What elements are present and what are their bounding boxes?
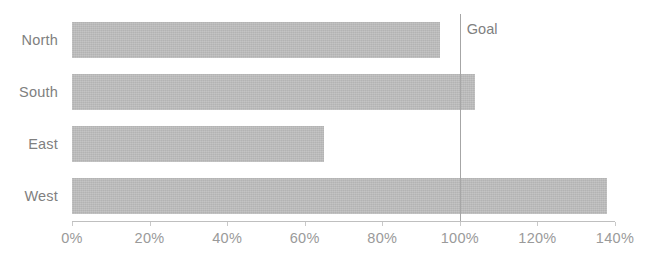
- bar-row: [72, 126, 615, 162]
- bar-chart: North South East West Goal 0%20%40%60%80…: [0, 0, 653, 266]
- bar-row: [72, 22, 615, 58]
- x-tick-mark-20: [150, 222, 151, 226]
- x-tick-label-80: 80%: [367, 231, 397, 246]
- x-tick-mark-100: [460, 222, 461, 226]
- x-tick-label-140: 140%: [596, 231, 634, 246]
- x-tick-label-40: 40%: [212, 231, 242, 246]
- category-label-east: East: [28, 137, 58, 152]
- x-tick-label-0: 0%: [61, 231, 83, 246]
- x-tick-mark-0: [72, 222, 73, 226]
- category-label-north: North: [22, 33, 58, 48]
- goal-line-label: Goal: [467, 22, 498, 37]
- bar-north[interactable]: [72, 22, 440, 58]
- bar-west[interactable]: [72, 178, 607, 214]
- bar-row: [72, 178, 615, 214]
- bar-east[interactable]: [72, 126, 324, 162]
- category-axis: North South East West: [0, 14, 66, 222]
- x-axis-line: [72, 221, 615, 222]
- x-tick-label-120: 120%: [518, 231, 556, 246]
- category-label-south: South: [19, 85, 58, 100]
- x-tick-mark-140: [615, 222, 616, 226]
- category-label-west: West: [24, 189, 58, 204]
- bar-row: [72, 74, 615, 110]
- plot-area: [72, 14, 615, 222]
- x-tick-label-100: 100%: [441, 231, 479, 246]
- x-tick-label-20: 20%: [135, 231, 165, 246]
- x-axis-tick-labels: 0%20%40%60%80%100%120%140%: [0, 231, 653, 253]
- x-tick-mark-80: [382, 222, 383, 226]
- bar-south[interactable]: [72, 74, 475, 110]
- x-tick-mark-40: [227, 222, 228, 226]
- goal-line: [460, 14, 462, 222]
- x-tick-mark-60: [305, 222, 306, 226]
- x-tick-mark-120: [537, 222, 538, 226]
- x-tick-label-60: 60%: [290, 231, 320, 246]
